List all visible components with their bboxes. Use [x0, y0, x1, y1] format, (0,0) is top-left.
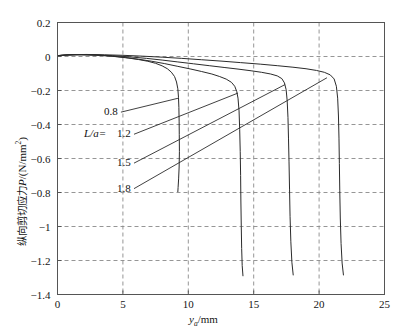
y-tick-label: −0.8 [31, 187, 51, 199]
y-axis-title-unit-close: ) [16, 137, 28, 141]
x-tick-label: 15 [248, 298, 260, 310]
series-label-1.2: 1.2 [117, 127, 131, 139]
chart-figure: 0510152025 0.20−0.2−0.4−0.6−0.8−1−1.2−1.… [0, 0, 407, 334]
x-tick-label: 20 [314, 298, 326, 310]
y-tick-label: −0.2 [31, 85, 51, 97]
y-axis-title-chinese: 纵向剪切应力 [16, 186, 28, 246]
series-label-0.8: 0.8 [104, 105, 118, 117]
x-tick-label: 5 [120, 298, 126, 310]
y-tick-label: −1 [39, 221, 51, 233]
y-axis-title-text: 纵向剪切应力P/(N/mm2) [12, 137, 29, 246]
x-tick-label: 25 [379, 298, 391, 310]
y-axis-title-symbol: P [16, 179, 28, 186]
y-tick-label: 0 [45, 51, 51, 63]
y-tick-label: −1.2 [31, 255, 51, 267]
chart-plot-svg: 0510152025 0.20−0.2−0.4−0.6−0.8−1−1.2−1.… [0, 0, 407, 334]
series-label-1.8: 1.8 [117, 182, 131, 194]
y-tick-label: −0.6 [31, 153, 51, 165]
x-axis-title: ya/mm [0, 309, 407, 328]
series-prefix-label: L/a= [83, 127, 106, 139]
y-tick-label: −1.4 [31, 289, 51, 301]
y-axis-title: 纵向剪切应力P/(N/mm2) [12, 78, 30, 248]
y-axis-title-exponent: 2 [14, 141, 23, 145]
y-axis-title-unit: /(N/mm [16, 144, 28, 179]
x-tick-label: 0 [55, 298, 61, 310]
x-tick-label: 10 [183, 298, 195, 310]
figure-background [0, 0, 407, 334]
x-axis-title-text: ya/mm [189, 313, 218, 325]
x-axis-title-unit: /mm [198, 313, 218, 325]
y-tick-label: 0.2 [37, 17, 51, 29]
series-label-1.5: 1.5 [117, 156, 131, 168]
y-tick-label: −0.4 [31, 119, 51, 131]
